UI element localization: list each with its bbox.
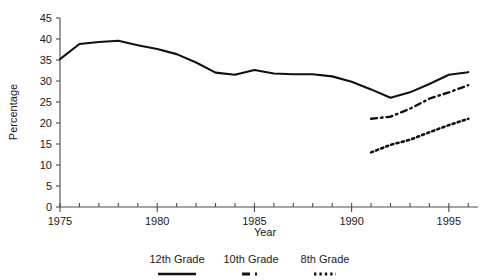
dotted-line-swatch [302,271,348,276]
y-tick-label: 25 [40,96,52,108]
x-axis-ticks: 19751980198519901995 [48,207,461,227]
legend-item-10th-grade: 10th Grade [214,252,288,276]
legend-label-8th-grade: 8th Grade [301,252,350,266]
y-tick-label: 45 [40,12,52,24]
x-tick-label: 1980 [145,215,169,227]
legend-item-12th-grade: 12th Grade [140,252,214,276]
x-axis-minor-ticks [60,203,468,207]
series-line-12th-grade [60,41,468,98]
y-tick-label: 30 [40,75,52,87]
legend-label-12th-grade: 12th Grade [149,252,204,266]
chart-container: 051015202530354045 19751980198519901995 … [0,0,502,280]
x-tick-label: 1995 [437,215,461,227]
series-layer [60,41,468,153]
y-tick-label: 10 [40,159,52,171]
y-tick-label: 40 [40,33,52,45]
y-tick-label: 35 [40,54,52,66]
x-tick-label: 1975 [48,215,72,227]
line-chart-plot: 051015202530354045 19751980198519901995 … [0,0,502,240]
y-axis-title: Percentage [7,84,19,140]
x-axis-title: Year [254,226,277,238]
series-line-8th-grade [371,119,468,153]
y-tick-label: 20 [40,117,52,129]
dash-dot-line-swatch [228,271,274,276]
y-tick-label: 0 [46,201,52,213]
x-tick-label: 1990 [339,215,363,227]
legend-item-8th-grade: 8th Grade [288,252,362,276]
legend-label-10th-grade: 10th Grade [223,252,278,266]
y-axis-ticks: 051015202530354045 [40,12,60,213]
y-tick-label: 5 [46,180,52,192]
solid-line-swatch [154,271,200,276]
y-tick-label: 15 [40,138,52,150]
series-line-10th-grade [371,85,468,119]
chart-legend: 12th Grade 10th Grade 8th Grade [0,252,502,276]
